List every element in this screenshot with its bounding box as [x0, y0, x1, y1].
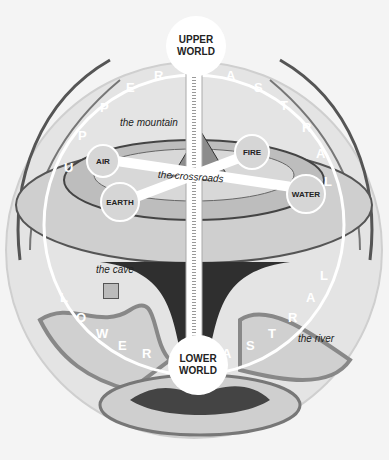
arc-letter: R	[142, 346, 151, 361]
cave-entrance-icon	[103, 283, 119, 299]
lower-world-label-line1: LOWER	[179, 353, 217, 365]
arc-letter: R	[302, 120, 311, 135]
arc-letter: A	[306, 290, 315, 305]
arc-letter: P	[78, 128, 87, 143]
water-node: WATER	[286, 174, 326, 214]
arc-letter: U	[64, 160, 73, 175]
arc-letter: W	[96, 326, 108, 341]
arc-letter: L	[320, 268, 328, 283]
arc-letter: A	[316, 146, 325, 161]
lower-world-node: LOWERWORLD	[168, 335, 228, 395]
world-tree-diagram: U P P E R A S T R A L L O W E R A S T R …	[0, 0, 389, 460]
earth-node: EARTH	[100, 182, 140, 222]
upper-world-label-line1: UPPER	[177, 34, 215, 46]
arc-letter: P	[100, 100, 109, 115]
arc-letter: T	[268, 326, 276, 341]
mountain-label: the mountain	[120, 117, 178, 128]
river-label: the river	[298, 333, 334, 344]
arc-letter: O	[76, 310, 86, 325]
arc-letter: L	[60, 290, 68, 305]
arc-letter: L	[324, 174, 332, 189]
air-node: AIR	[86, 144, 120, 178]
upper-world-node: UPPERWORLD	[166, 16, 226, 76]
arc-letter: R	[154, 68, 163, 83]
lower-world-label-line2: WORLD	[179, 365, 217, 377]
arc-letter: R	[288, 310, 297, 325]
arc-letter: E	[118, 338, 127, 353]
arc-letter: S	[246, 338, 255, 353]
arc-letter: T	[280, 98, 288, 113]
upper-world-label-line2: WORLD	[177, 46, 215, 58]
fire-node: FIRE	[234, 134, 270, 170]
arc-letter: A	[226, 68, 235, 83]
arc-letter: S	[254, 80, 263, 95]
arc-letter: E	[126, 80, 135, 95]
cave-label: the cave	[96, 264, 134, 275]
